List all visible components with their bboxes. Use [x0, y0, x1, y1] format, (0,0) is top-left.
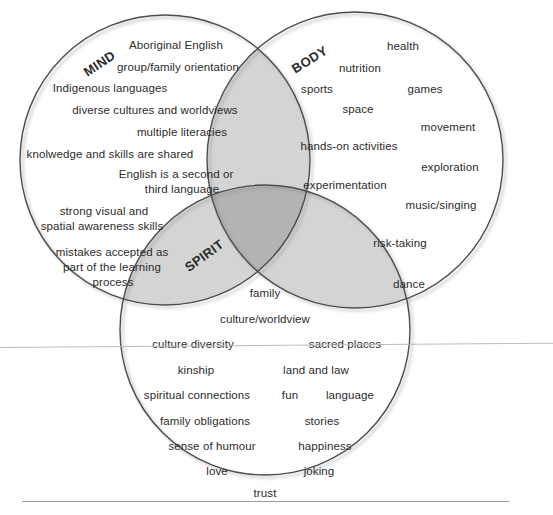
spirit-term[interactable]: spiritual connections: [144, 389, 250, 403]
body-term[interactable]: risk-taking: [373, 237, 427, 251]
spirit-term[interactable]: joking: [304, 465, 335, 479]
mind-term[interactable]: part of the learning: [63, 261, 161, 275]
spirit-term[interactable]: love: [206, 465, 228, 479]
body-term[interactable]: games: [407, 83, 442, 97]
mind-term[interactable]: English is a second or: [119, 168, 234, 182]
spirit-term[interactable]: sense of humour: [168, 440, 255, 454]
spirit-term[interactable]: culture/worldview: [220, 313, 310, 327]
mind-term[interactable]: multiple literacies: [137, 126, 227, 140]
footer-divider-line: [22, 501, 509, 502]
body-term[interactable]: space: [342, 103, 373, 117]
mind-term[interactable]: knolwedge and skills are shared: [27, 148, 194, 162]
spirit-term[interactable]: trust: [254, 487, 277, 501]
mind-term[interactable]: process: [93, 276, 134, 290]
spirit-term[interactable]: happiness: [298, 440, 351, 454]
body-term[interactable]: dance: [393, 278, 425, 292]
body-term[interactable]: music/singing: [406, 199, 477, 213]
spirit-term[interactable]: stories: [305, 415, 340, 429]
body-term[interactable]: exploration: [421, 161, 478, 175]
spirit-term[interactable]: language: [326, 389, 374, 403]
body-term[interactable]: sports: [301, 83, 333, 97]
spirit-term[interactable]: family: [250, 287, 281, 301]
spirit-term[interactable]: land and law: [283, 364, 349, 378]
body-term[interactable]: movement: [421, 121, 476, 135]
body-term[interactable]: health: [387, 40, 419, 54]
mind-term[interactable]: spatial awareness skills: [41, 220, 164, 234]
body-term[interactable]: experimentation: [303, 179, 386, 193]
spirit-term[interactable]: fun: [282, 389, 298, 403]
mind-term[interactable]: diverse cultures and worldviews: [72, 104, 237, 118]
body-term[interactable]: nutrition: [339, 62, 381, 76]
mind-term[interactable]: third language: [145, 183, 219, 197]
spirit-term[interactable]: family obligations: [160, 415, 250, 429]
mind-term[interactable]: group/family orientation: [117, 61, 239, 75]
mind-term[interactable]: strong visual and: [60, 205, 149, 219]
spirit-term[interactable]: kinship: [178, 364, 215, 378]
venn-diagram: MINDBODYSPIRIT Aboriginal Englishgroup/f…: [0, 0, 553, 515]
mind-term[interactable]: mistakes accepted as: [56, 246, 169, 260]
mind-term[interactable]: Indigenous languages: [53, 82, 168, 96]
body-term[interactable]: hands-on activities: [300, 140, 397, 154]
mind-term[interactable]: Aboriginal English: [129, 39, 223, 53]
